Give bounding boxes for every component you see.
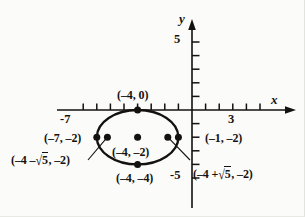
x-tick-label-3: 3 [228, 113, 234, 126]
point-top-covertex [134, 107, 141, 114]
label-right-focus-suffix: , –2) [231, 167, 253, 181]
point-right-vertex [175, 134, 182, 141]
label-bottom-covertex: (–4, –4) [116, 172, 153, 184]
y-axis-label: y [179, 12, 185, 25]
point-left-vertex [93, 134, 100, 141]
ellipse-graph-figure: y x 5 -5 3 -7 (–4, 0) (–7, –2) (–1, –2) … [0, 0, 305, 217]
x-tick-label-minus7: -7 [60, 113, 70, 126]
y-tick-label-5: 5 [174, 33, 180, 46]
sqrt-icon-left: √ [36, 154, 43, 168]
x-axis-arrowhead [285, 106, 296, 114]
label-left-focus: (–4 –√5, –2) [10, 154, 305, 166]
label-right-focus: (–4 +√5, –2) [192, 168, 305, 180]
x-axis-ticks [83, 104, 260, 111]
y-axis-arrowhead [188, 19, 196, 30]
sqrt-icon-right: √ [218, 168, 225, 182]
label-left-vertex: (–7, –2) [44, 132, 81, 144]
label-right-focus-prefix: (–4 + [193, 167, 218, 181]
point-left-focus [104, 134, 111, 141]
label-top-covertex: (–4, 0) [117, 89, 148, 101]
label-left-focus-suffix: , –2) [48, 153, 70, 167]
label-left-focus-prefix: (–4 – [11, 153, 36, 167]
x-axis-label: x [271, 93, 278, 106]
point-center [134, 134, 141, 141]
label-right-vertex: (–1, –2) [205, 132, 242, 144]
y-tick-label-minus5: -5 [170, 169, 180, 182]
point-right-focus [164, 134, 171, 141]
